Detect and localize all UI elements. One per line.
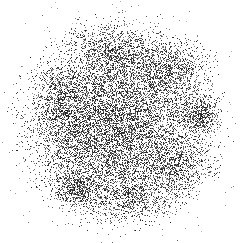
scintigram-image	[0, 0, 242, 243]
scintigram-viewport: Scintigraphy dot-density scan	[0, 0, 242, 243]
